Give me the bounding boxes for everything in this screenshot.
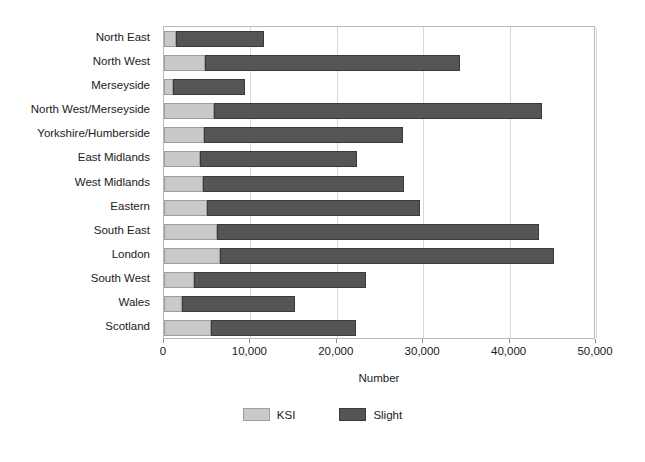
bar-wales xyxy=(164,296,295,312)
x-tick-mark xyxy=(509,339,510,343)
bar-segment-ksi xyxy=(164,320,211,336)
x-tick-label: 30,000 xyxy=(405,344,440,358)
chart-legend: KSISlight xyxy=(0,408,645,421)
bar-segment-ksi xyxy=(164,103,214,119)
bar-segment-slight xyxy=(207,200,420,216)
category-label: North East xyxy=(96,31,150,44)
category-label: Scotland xyxy=(105,320,150,333)
category-label: Yorkshire/Humberside xyxy=(37,127,150,140)
legend-label: Slight xyxy=(373,409,402,421)
bar-segment-ksi xyxy=(164,272,194,288)
x-tick-label: 20,000 xyxy=(318,344,353,358)
category-label: South West xyxy=(91,272,150,285)
bar-segment-ksi xyxy=(164,127,204,143)
x-tick-label: 40,000 xyxy=(491,344,526,358)
bar-segment-slight xyxy=(220,248,554,264)
x-tick-mark xyxy=(249,339,250,343)
legend-swatch-slight xyxy=(339,408,366,421)
bar-segment-ksi xyxy=(164,176,203,192)
legend-item-ksi[interactable]: KSI xyxy=(243,408,296,421)
legend-item-slight[interactable]: Slight xyxy=(339,408,402,421)
legend-swatch-ksi xyxy=(243,408,270,421)
category-label: Eastern xyxy=(110,200,150,213)
bar-segment-ksi xyxy=(164,79,173,95)
x-tick-label: 50,000 xyxy=(577,344,612,358)
x-tick-mark xyxy=(336,339,337,343)
bar-south-east xyxy=(164,224,539,240)
category-label: Merseyside xyxy=(91,79,150,92)
x-tick-mark xyxy=(163,339,164,343)
gridline xyxy=(596,27,597,338)
plot-area xyxy=(163,26,595,339)
bar-segment-ksi xyxy=(164,296,182,312)
bar-scotland xyxy=(164,320,356,336)
x-axis: 010,00020,00030,00040,00050,000 xyxy=(163,339,595,363)
bar-segment-slight xyxy=(194,272,366,288)
category-label: London xyxy=(112,248,150,261)
bar-segment-ksi xyxy=(164,55,205,71)
bar-segment-ksi xyxy=(164,224,217,240)
bar-london xyxy=(164,248,554,264)
bar-segment-slight xyxy=(211,320,356,336)
stacked-bar-chart: North EastNorth WestMerseysideNorth West… xyxy=(0,0,645,462)
bar-segment-ksi xyxy=(164,200,207,216)
category-label: West Midlands xyxy=(75,176,150,189)
gridline xyxy=(510,27,511,338)
bar-segment-slight xyxy=(200,151,356,167)
x-tick-label: 0 xyxy=(160,344,166,358)
category-label: South East xyxy=(94,224,150,237)
bar-west-midlands xyxy=(164,176,404,192)
category-axis: North EastNorth WestMerseysideNorth West… xyxy=(0,26,158,338)
x-tick-mark xyxy=(422,339,423,343)
bar-segment-slight xyxy=(203,176,404,192)
bar-segment-ksi xyxy=(164,248,220,264)
x-axis-title: Number xyxy=(163,372,595,384)
bar-segment-slight xyxy=(217,224,539,240)
bar-north-west-merseyside xyxy=(164,103,542,119)
bar-north-east xyxy=(164,31,264,47)
bar-segment-ksi xyxy=(164,151,200,167)
category-label: East Midlands xyxy=(78,151,150,164)
legend-label: KSI xyxy=(277,409,296,421)
bar-eastern xyxy=(164,200,420,216)
bar-south-west xyxy=(164,272,366,288)
x-tick-label: 10,000 xyxy=(232,344,267,358)
bar-segment-slight xyxy=(214,103,542,119)
bar-yorkshire-humberside xyxy=(164,127,403,143)
bar-east-midlands xyxy=(164,151,357,167)
bar-segment-slight xyxy=(204,127,404,143)
bar-segment-slight xyxy=(182,296,295,312)
bar-segment-ksi xyxy=(164,31,176,47)
category-label: Wales xyxy=(118,296,150,309)
bar-merseyside xyxy=(164,79,245,95)
bar-segment-slight xyxy=(205,55,461,71)
gridline xyxy=(423,27,424,338)
bar-north-west xyxy=(164,55,460,71)
bar-segment-slight xyxy=(176,31,264,47)
bar-segment-slight xyxy=(173,79,246,95)
x-tick-mark xyxy=(595,339,596,343)
category-label: North West/Merseyside xyxy=(31,103,150,116)
category-label: North West xyxy=(93,55,150,68)
